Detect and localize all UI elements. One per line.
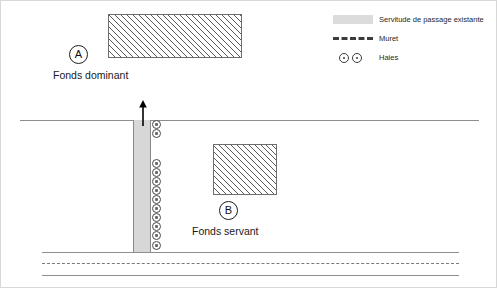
parcel-a-shape — [108, 14, 242, 58]
parcel-a-marker: A — [69, 45, 88, 64]
property-boundary-line — [20, 120, 479, 121]
legend: Servitude de passage existante Muret Hai… — [333, 15, 493, 72]
hedge-marker — [152, 241, 161, 250]
hedge-marker — [152, 177, 161, 186]
dashed-line-swatch-icon — [333, 37, 373, 40]
hedge-marker — [152, 186, 161, 195]
hedge-marker — [152, 204, 161, 213]
legend-label-haies: Haies — [379, 53, 398, 63]
hedge-marker — [152, 213, 161, 222]
servitude-strip — [133, 120, 151, 253]
road-edge-top — [42, 252, 459, 253]
hedge-marker — [152, 159, 161, 168]
parcel-b-shape — [213, 144, 277, 195]
hedge-icon — [352, 53, 362, 63]
hedge-marker — [152, 129, 161, 138]
hedge-marker — [152, 222, 161, 231]
hedge-marker — [152, 231, 161, 240]
diagram-canvas: A Fonds dominant B Fonds servant Servitu… — [0, 0, 499, 290]
parcel-b-marker: B — [219, 201, 238, 220]
hedge-marker — [152, 195, 161, 204]
hedge-icon — [339, 53, 349, 63]
double-circle-swatch-icon — [339, 53, 373, 64]
legend-row-muret: Muret — [333, 34, 493, 53]
road-center-dashed-line — [42, 263, 459, 264]
legend-row-haies: Haies — [333, 53, 493, 72]
road-edge-bottom — [42, 275, 459, 276]
direction-arrow-icon — [138, 100, 148, 126]
hedge-marker — [152, 168, 161, 177]
legend-row-servitude: Servitude de passage existante — [333, 15, 493, 34]
parcel-b-label: Fonds servant — [192, 225, 259, 237]
legend-label-muret: Muret — [379, 34, 398, 44]
hedge-marker — [152, 120, 161, 129]
parcel-a-label: Fonds dominant — [53, 69, 128, 81]
gray-band-swatch-icon — [333, 15, 373, 24]
legend-label-servitude: Servitude de passage existante — [379, 15, 484, 25]
